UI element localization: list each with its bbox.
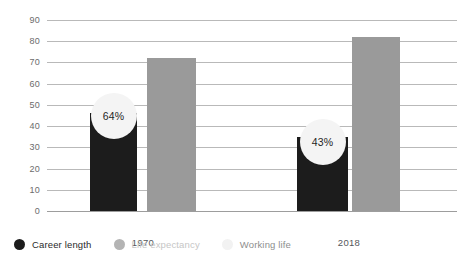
legend-swatch-icon-working-life bbox=[222, 239, 233, 250]
x-axis-label-2018: 2018 bbox=[338, 237, 360, 248]
y-tick-label-70: 70 bbox=[30, 57, 40, 67]
legend-label-career-length: Career length bbox=[32, 239, 92, 250]
legend-swatch-icon-life-expectancy bbox=[114, 239, 125, 250]
y-tick-label-0: 0 bbox=[35, 206, 40, 216]
legend-label-life-expectancy: Life expectancy bbox=[132, 239, 200, 250]
bubble-working-life-1970: 64% bbox=[91, 93, 137, 139]
chart-legend: Career length Life expectancy Working li… bbox=[14, 234, 313, 254]
legend-item-career-length[interactable]: Career length bbox=[14, 239, 92, 250]
legend-item-working-life[interactable]: Working life bbox=[222, 239, 291, 250]
gridline-0: 0 bbox=[47, 211, 457, 212]
legend-item-life-expectancy[interactable]: Life expectancy bbox=[114, 239, 200, 250]
bubble-label-2018: 43% bbox=[312, 136, 334, 148]
y-tick-label-20: 20 bbox=[30, 164, 40, 174]
bar-life-expectancy-1970 bbox=[147, 58, 196, 211]
bar-life-expectancy-2018 bbox=[352, 37, 400, 211]
y-tick-label-80: 80 bbox=[30, 36, 40, 46]
bubble-label-1970: 64% bbox=[103, 110, 125, 122]
y-tick-label-50: 50 bbox=[30, 100, 40, 110]
bubble-working-life-2018: 43% bbox=[300, 119, 346, 165]
legend-label-working-life: Working life bbox=[240, 239, 291, 250]
plot-area: 90 80 70 60 50 40 30 20 10 0 bbox=[47, 20, 457, 211]
y-tick-label-40: 40 bbox=[30, 121, 40, 131]
y-tick-label-90: 90 bbox=[30, 15, 40, 25]
y-tick-label-60: 60 bbox=[30, 79, 40, 89]
gridline-90: 90 bbox=[47, 20, 457, 21]
legend-swatch-icon-career-length bbox=[14, 239, 25, 250]
y-tick-label-10: 10 bbox=[30, 185, 40, 195]
bar-chart: 90 80 70 60 50 40 30 20 10 0 bbox=[0, 0, 474, 262]
y-tick-label-30: 30 bbox=[30, 142, 40, 152]
